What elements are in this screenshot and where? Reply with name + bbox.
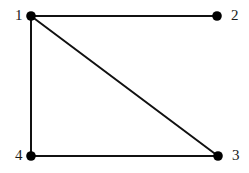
graph-canvas — [0, 0, 249, 173]
edge-1-3 — [31, 16, 218, 156]
node-label-3: 3 — [232, 148, 240, 163]
node-2[interactable] — [212, 11, 222, 21]
graph-figure: 1234 — [0, 0, 249, 173]
node-4[interactable] — [26, 151, 36, 161]
node-1[interactable] — [26, 11, 36, 21]
node-label-1: 1 — [15, 8, 23, 23]
node-3[interactable] — [213, 151, 223, 161]
node-label-4: 4 — [15, 148, 23, 163]
edges-group — [31, 16, 218, 156]
node-label-2: 2 — [231, 8, 239, 23]
